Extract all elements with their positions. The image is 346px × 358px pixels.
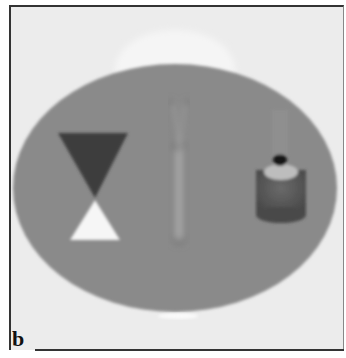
panel-label: b xyxy=(12,328,24,350)
artifact-spot xyxy=(158,313,198,319)
axis-line xyxy=(35,349,344,351)
phantom-image xyxy=(0,0,346,358)
dark-dot xyxy=(273,154,287,166)
